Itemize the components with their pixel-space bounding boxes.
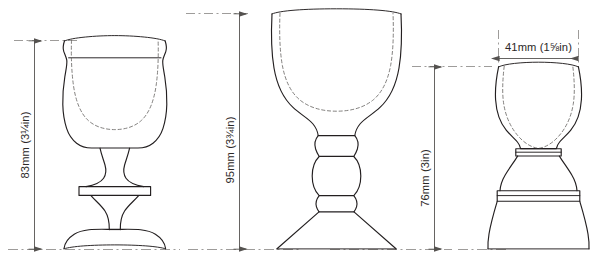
goblet-right-bowl-outline bbox=[495, 67, 581, 149]
goblet-left-inner-bowl-hidden bbox=[71, 40, 158, 129]
goblet-left-foot-base-ellipse bbox=[64, 245, 166, 249]
goblet-left-upper-stem bbox=[86, 148, 106, 186]
goblet-middle-rim-ellipse bbox=[272, 9, 401, 14]
dimension-label-middle-height: 95mm (3¾in) bbox=[224, 116, 236, 183]
goblet-right-waisted-stem bbox=[500, 156, 518, 191]
goblet-right-flared-foot bbox=[488, 201, 497, 249]
goblet-right-rim-ellipse bbox=[499, 62, 579, 67]
goblet-left bbox=[14, 36, 167, 250]
goblet-middle-knop-upper bbox=[315, 136, 358, 157]
goblet-middle-knop-lower bbox=[316, 196, 357, 212]
goblet-middle-bowl-outline bbox=[271, 14, 401, 136]
goblet-middle-inner-bowl-hidden bbox=[280, 13, 394, 111]
goblet-left-lower-stem bbox=[91, 196, 109, 230]
goblet-left-rim-ellipse bbox=[65, 36, 165, 41]
goblet-left-bowl-outline bbox=[63, 41, 167, 148]
dimension-label-left-height: 83mm (3¼in) bbox=[19, 111, 31, 178]
goblet-right-inner-bowl-hidden bbox=[503, 66, 575, 148]
goblet-middle bbox=[186, 9, 402, 249]
goblet-drawings-svg: 83mm (3¼in) 95mm (3¾in) 41mm (1⅝in) 76mm… bbox=[0, 0, 611, 267]
goblet-left-lower-stem-right bbox=[120, 196, 138, 230]
dimension-label-right-width: 41mm (1⅝in) bbox=[505, 41, 572, 53]
goblet-middle-knop-central bbox=[312, 157, 361, 196]
goblet-left-merese bbox=[79, 187, 151, 196]
technical-drawing-sheet: 83mm (3¼in) 95mm (3¾in) 41mm (1⅝in) 76mm… bbox=[0, 0, 611, 267]
goblet-middle-conical-foot-right bbox=[354, 212, 396, 249]
dimension-label-right-height: 76mm (3in) bbox=[419, 149, 431, 207]
goblet-right-waisted-stem-right bbox=[559, 156, 577, 191]
goblet-middle-conical-foot bbox=[277, 212, 319, 249]
goblet-right bbox=[412, 30, 589, 249]
goblet-right-flared-foot-right bbox=[580, 201, 589, 249]
goblet-left-upper-stem-right bbox=[124, 148, 144, 186]
